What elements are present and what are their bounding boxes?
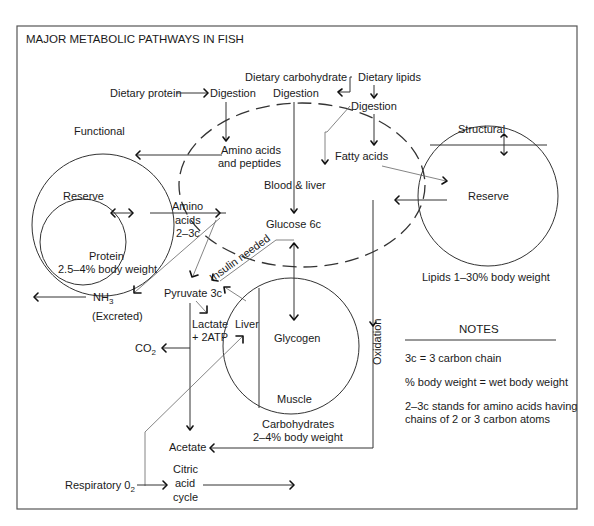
digestion-carb-label: Digestion bbox=[273, 87, 319, 99]
lactate-label: Lactate bbox=[192, 318, 228, 330]
blood-liver-label: Blood & liver bbox=[264, 179, 326, 191]
functional-label: Functional bbox=[74, 125, 125, 137]
note-item: % body weight = wet body weight bbox=[405, 376, 568, 388]
note-item: chains of 2 or 3 carbon atoms bbox=[405, 413, 550, 425]
acetate-label: Acetate bbox=[169, 441, 206, 453]
2-3c-label: 2–3c bbox=[176, 227, 200, 239]
muscle-label: Muscle bbox=[277, 393, 312, 405]
peptides-label: and peptides bbox=[218, 157, 281, 169]
dietary-carbohydrate-label: Dietary carbohydrate bbox=[245, 71, 347, 83]
dietary-lipids-label: Dietary lipids bbox=[358, 71, 421, 83]
note-item: 3c = 3 carbon chain bbox=[405, 352, 501, 364]
respiratory-o2-label: Respiratory 02 bbox=[65, 479, 135, 494]
acids-label: acids bbox=[175, 214, 201, 226]
notes-heading: NOTES bbox=[459, 323, 499, 335]
amino-label: Amino bbox=[172, 200, 203, 212]
protein-reserve-label: Reserve bbox=[63, 190, 104, 202]
digestion-lipids-label: Digestion bbox=[351, 100, 397, 112]
cycle-label: cycle bbox=[173, 491, 198, 503]
protein-weight-caption: 2.5–4% body weight bbox=[58, 263, 157, 275]
oxidation-label: Oxidation bbox=[371, 319, 383, 365]
metabolic-pathways-diagram: MAJOR METABOLIC PATHWAYS IN FISH Dietary… bbox=[0, 0, 594, 526]
citric-label: Citric bbox=[173, 463, 199, 475]
lipid-reserve-label: Reserve bbox=[468, 190, 509, 202]
diagram-title: MAJOR METABOLIC PATHWAYS IN FISH bbox=[26, 33, 244, 45]
note-item: 2–3c stands for amino acids having bbox=[405, 400, 577, 412]
carb-weight-caption: 2–4% body weight bbox=[253, 431, 343, 443]
insulin-needed-label: Insulin needed bbox=[207, 232, 272, 284]
acid-label: acid bbox=[175, 477, 195, 489]
glycogen-label: Glycogen bbox=[274, 332, 320, 344]
carbohydrates-caption: Carbohydrates bbox=[262, 418, 335, 430]
liver-label: Liver bbox=[235, 318, 259, 330]
dietary-protein-label: Dietary protein bbox=[110, 87, 182, 99]
nh3-label: NH3 bbox=[93, 291, 114, 306]
digestion-protein-label: Digestion bbox=[210, 87, 256, 99]
fatty-acids-label: Fatty acids bbox=[335, 150, 389, 162]
protein-caption: Protein bbox=[89, 250, 124, 262]
pyruvate-label: Pyruvate 3c bbox=[164, 287, 223, 299]
excreted-label: (Excreted) bbox=[92, 310, 143, 322]
structural-label: Structural bbox=[458, 123, 505, 135]
lipids-caption: Lipids 1–30% body weight bbox=[422, 271, 550, 283]
co2-label: CO2 bbox=[135, 342, 157, 357]
glucose-label: Glucose 6c bbox=[266, 218, 322, 230]
amino-acids-label: Amino acids bbox=[221, 144, 281, 156]
